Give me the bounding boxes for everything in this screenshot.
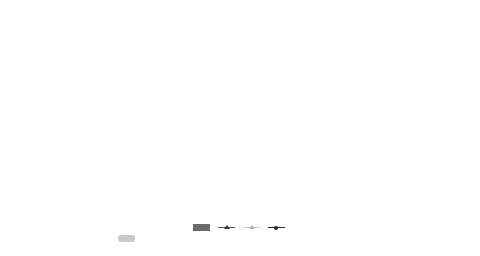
line-triangle-dark-icon (218, 224, 235, 231)
legend-item-hispanic (268, 224, 288, 231)
bar-dark-swatch-icon (193, 224, 210, 231)
x-axis-ticks (41, 192, 471, 212)
bar-light-swatch-icon (118, 235, 135, 242)
chart-root (0, 0, 480, 256)
chart-svg (41, 22, 471, 188)
plot-area (41, 22, 471, 188)
legend-item-black (218, 224, 238, 231)
legend-item-white (118, 235, 138, 242)
legend-row-2 (0, 233, 480, 244)
legend-item-non-hispanic-white (243, 224, 263, 231)
legend-item-all-illegitimate-births (193, 224, 213, 231)
legend-row-1 (0, 222, 480, 233)
line-triangle-light-icon (243, 224, 260, 231)
chart-legend (0, 222, 480, 244)
line-dot-icon (268, 224, 285, 231)
